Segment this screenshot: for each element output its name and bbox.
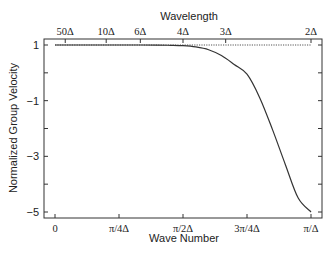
x-axis-title: Wave Number (149, 232, 219, 244)
top-tick-label: 50Δ (57, 26, 75, 37)
y-tick-label: −5 (26, 206, 39, 218)
y-tick-label: 1 (33, 39, 39, 51)
top-axis-ticks: 50Δ10Δ6Δ4Δ3Δ2Δ (57, 26, 318, 43)
bottom-axis-ticks: 0π/4Δπ/2Δ3π/4Δπ/Δ (52, 214, 318, 234)
top-axis-title: Wavelength (160, 10, 218, 22)
bottom-tick-label: 0 (52, 223, 57, 234)
bottom-tick-label: 3π/4Δ (234, 223, 260, 234)
plot-frame (44, 39, 322, 218)
y-axis-title: Normalized Group Velocity (7, 62, 19, 193)
bottom-tick-label: π/4Δ (109, 223, 129, 234)
top-tick-label: 10Δ (98, 26, 116, 37)
top-tick-label: 6Δ (134, 26, 146, 37)
y-tick-label: −3 (26, 150, 39, 162)
y-tick-label: −1 (26, 95, 39, 107)
numerical-velocity-curve (55, 45, 311, 212)
y-axis-ticks: 1−1−3−5 (26, 39, 322, 218)
bottom-tick-label: π/Δ (304, 223, 319, 234)
top-tick-label: 4Δ (177, 26, 189, 37)
group-velocity-chart: Wavelength 50Δ10Δ6Δ4Δ3Δ2Δ 0π/4Δπ/2Δ3π/4Δ… (0, 0, 335, 257)
top-tick-label: 2Δ (305, 26, 317, 37)
top-tick-label: 3Δ (220, 26, 232, 37)
